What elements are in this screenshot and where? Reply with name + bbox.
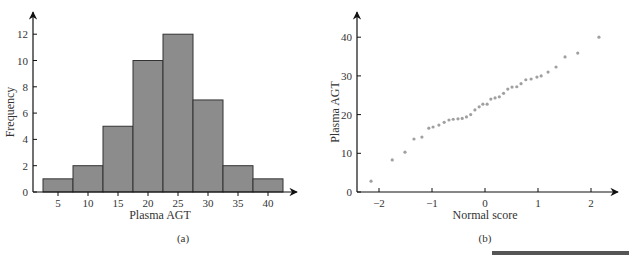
histogram-panel: 024681012 510152025303540 Plasma AGT Fre… [3,12,297,245]
x-tick-label: 30 [203,197,215,209]
data-point [540,74,543,77]
scatter-points [369,36,600,183]
data-point [481,103,484,106]
y-tick-label: 0 [23,186,29,198]
data-point [493,96,496,99]
data-point [431,125,434,128]
y-tick-label: 10 [17,55,29,67]
data-point [469,113,472,116]
y-tick-label: 20 [341,109,353,121]
data-point [506,87,509,90]
histogram-bar [103,126,133,192]
x-tick-label: 1 [535,197,541,209]
data-point [452,118,455,121]
panel-a-label: (a) [177,232,190,245]
y-tick-label: 6 [23,107,29,119]
x-tick-label: 5 [55,197,61,209]
data-point [563,55,566,58]
scatter-x-axis-title: Normal score [453,208,518,222]
histogram-x-ticks: 510152025303540 [55,192,274,209]
data-point [519,82,522,85]
histogram-bar [223,166,253,192]
data-point [427,127,430,130]
scatter-y-ticks: 010203040 [341,31,361,198]
y-tick-label: 0 [347,186,353,198]
data-point [465,115,468,118]
data-point [510,86,513,89]
data-point [437,123,440,126]
histogram-y-axis-title: Frequency [3,87,17,138]
x-tick-label: −2 [373,197,385,209]
histogram-bars [43,34,283,192]
data-point [546,70,549,73]
data-point [554,65,557,68]
histogram-bar [43,179,73,192]
data-point [403,151,406,154]
normal-probability-panel: 010203040 −2−1012 Normal score Plasma AG… [328,12,618,245]
histogram-bar [73,166,103,192]
scatter-y-axis-title: Plasma AGT [328,81,342,143]
histogram-bar [253,179,283,192]
x-tick-label: 2 [588,197,594,209]
x-tick-label: 40 [263,197,275,209]
histogram-bar [193,100,223,192]
histogram-y-ticks: 024681012 [17,28,37,198]
y-tick-label: 8 [23,81,29,93]
x-tick-label: 35 [233,197,245,209]
data-point [502,92,505,95]
data-point [420,135,423,138]
data-point [478,105,481,108]
data-point [515,85,518,88]
x-tick-label: 10 [83,197,95,209]
data-point [530,77,533,80]
figure: 024681012 510152025303540 Plasma AGT Fre… [0,0,629,259]
data-point [597,36,600,39]
panel-b-label: (b) [479,232,492,245]
y-tick-label: 12 [17,28,28,40]
data-point [473,108,476,111]
y-tick-label: 2 [23,160,29,172]
histogram-x-axis-title: Plasma AGT [129,208,191,222]
data-point [391,158,394,161]
data-point [456,117,459,120]
data-point [524,78,527,81]
data-point [443,121,446,124]
x-tick-label: 15 [113,197,125,209]
y-tick-label: 30 [341,70,353,82]
y-tick-label: 10 [341,147,353,159]
x-tick-label: −1 [426,197,438,209]
histogram-bar [133,61,163,193]
scatter-x-ticks: −2−1012 [373,188,594,209]
bottom-rule [492,251,629,255]
data-point [498,95,501,98]
data-point [412,137,415,140]
data-point [576,51,579,54]
data-point [486,103,489,106]
data-point [447,118,450,121]
data-point [489,98,492,101]
histogram-bar [163,34,193,192]
data-point [461,117,464,120]
data-point [535,75,538,78]
y-tick-label: 40 [341,31,353,43]
y-tick-label: 4 [23,133,29,145]
data-point [369,180,372,183]
